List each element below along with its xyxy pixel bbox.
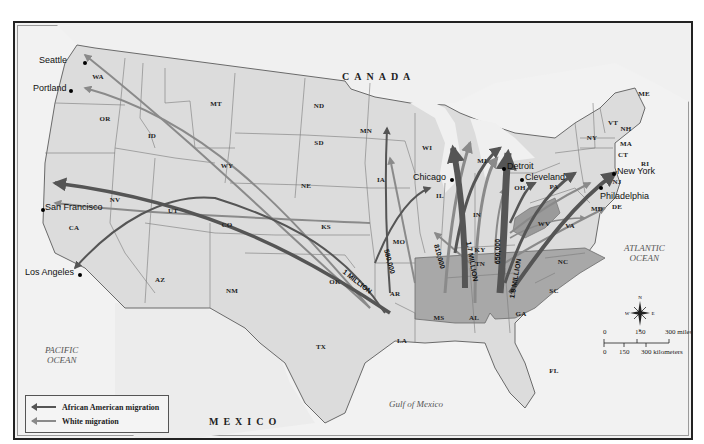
state-ca: CA	[69, 224, 80, 232]
label-mexico: MEXICO	[209, 416, 281, 427]
state-ar: AR	[390, 290, 401, 298]
city-philadelphia: Philadelphia	[600, 191, 649, 201]
state-mn: MN	[360, 127, 372, 135]
state-ky: KY	[475, 246, 486, 254]
map-frame: CANADA MEXICO PACIFIC OCEAN ATLANTIC OCE…	[13, 21, 693, 440]
city-detroit: Detroit	[507, 161, 534, 171]
city-chicago: Chicago	[413, 172, 446, 182]
state-md: MD	[591, 205, 603, 213]
city-dot-detroit	[502, 167, 506, 171]
state-ms: MS	[434, 314, 445, 322]
svg-text:E: E	[651, 311, 654, 316]
state-tx: TX	[316, 343, 326, 351]
state-va: VA	[565, 222, 575, 230]
state-la: LA	[397, 337, 407, 345]
us-map-svg	[15, 23, 691, 438]
city-san-francisco: San Francisco	[45, 202, 103, 212]
state-nj: NJ	[613, 178, 622, 186]
state-ma: MA	[620, 140, 632, 148]
city-new-york: New York	[617, 166, 655, 176]
state-mo: MO	[393, 238, 405, 246]
city-cleveland: Cleveland	[525, 172, 565, 182]
state-ny: NY	[587, 134, 598, 142]
state-fl: FL	[549, 367, 558, 375]
state-wa: WA	[92, 73, 104, 81]
state-al: AL	[469, 314, 479, 322]
city-dot-cleveland	[520, 178, 524, 182]
city-dot-portland	[69, 89, 73, 93]
scale-ruler	[603, 338, 673, 348]
state-ks: KS	[321, 223, 331, 231]
state-nc: NC	[558, 258, 569, 266]
dark-arrow-icon	[32, 406, 56, 408]
flow-label-650000: 650,000	[494, 239, 501, 264]
state-ne: NE	[301, 182, 311, 190]
city-seattle: Seattle	[39, 55, 67, 65]
state-ct: CT	[618, 151, 628, 159]
city-dot-seattle	[83, 61, 87, 65]
state-ok: OK	[329, 278, 340, 286]
state-wi: WI	[422, 144, 432, 152]
state-nv: NV	[110, 196, 121, 204]
state-nd: ND	[314, 102, 325, 110]
label-pacific-ocean: PACIFIC OCEAN	[45, 345, 78, 365]
label-atlantic-ocean: ATLANTIC OCEAN	[624, 243, 665, 263]
state-sc: SC	[549, 287, 558, 295]
city-dot-los-angeles	[78, 273, 82, 277]
city-los-angeles: Los Angeles	[25, 267, 74, 277]
legend-african-american: African American migration	[32, 401, 159, 413]
state-nh: NH	[621, 125, 632, 133]
state-pa: PA	[549, 183, 558, 191]
state-il: IL	[436, 192, 444, 200]
state-or: OR	[100, 115, 111, 123]
city-dot-chicago	[450, 178, 454, 182]
state-in: IN	[473, 211, 481, 219]
state-mi: MI	[477, 157, 487, 165]
state-de: DE	[612, 203, 622, 211]
state-mt: MT	[210, 100, 222, 108]
state-nm: NM	[226, 287, 238, 295]
svg-text:W: W	[625, 311, 630, 316]
legend-white: White migration	[32, 415, 119, 427]
svg-text:N: N	[638, 295, 642, 300]
light-arrow-icon	[32, 420, 56, 422]
state-ut: UT	[168, 207, 178, 215]
state-id: ID	[148, 132, 156, 140]
label-canada: CANADA	[342, 71, 415, 82]
state-oh: OH	[514, 184, 525, 192]
label-gulf-of-mexico: Gulf of Mexico	[389, 399, 443, 409]
state-az: AZ	[155, 276, 165, 284]
city-dot-philadelphia	[599, 186, 603, 190]
map-legend: African American migration White migrati…	[25, 395, 169, 433]
state-vt: VT	[608, 119, 618, 127]
state-ia: IA	[377, 176, 385, 184]
state-wy: WY	[221, 162, 233, 170]
state-wv: WV	[538, 220, 550, 228]
compass-rose-icon: N S W E	[625, 293, 655, 333]
scale-bar: 0 150 300 miles 0 150 300 kilometers	[603, 328, 693, 368]
city-dot-new-york	[612, 172, 616, 176]
state-me: ME	[638, 90, 650, 98]
city-portland: Portland	[33, 83, 67, 93]
state-sd: SD	[314, 139, 323, 147]
state-ga: GA	[516, 310, 527, 318]
state-co: CO	[222, 221, 233, 229]
